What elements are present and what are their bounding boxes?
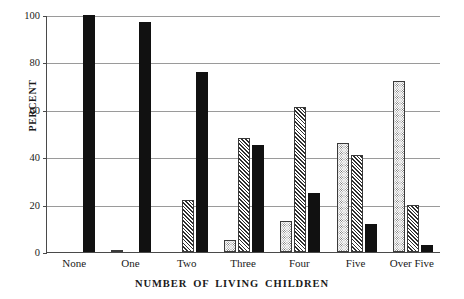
bar: [111, 250, 123, 252]
bar: [393, 81, 405, 252]
bar: [407, 205, 419, 252]
y-tick-label: 20: [30, 200, 41, 211]
bar-group: [168, 16, 208, 252]
y-tick-label: 80: [30, 58, 41, 69]
bar-group: [280, 16, 320, 252]
y-tick-label: 60: [30, 106, 41, 117]
bar-group: [55, 16, 95, 252]
y-tick-mark: [43, 206, 47, 207]
x-tick-label: Four: [289, 258, 310, 269]
bar: [294, 107, 306, 252]
x-tick-label: Five: [346, 258, 366, 269]
x-axis-title: NUMBER OF LIVING CHILDREN: [0, 278, 464, 289]
bar: [238, 138, 250, 252]
bar-group: [111, 16, 151, 252]
bar: [421, 245, 433, 252]
bar: [224, 240, 236, 252]
bar-group: [337, 16, 377, 252]
y-tick-mark: [43, 253, 47, 254]
bar-group: [393, 16, 433, 252]
y-tick-mark: [43, 158, 47, 159]
bar: [83, 15, 95, 252]
plot-area: 020406080100: [46, 16, 440, 253]
y-tick-label: 40: [30, 153, 41, 164]
bar: [337, 143, 349, 252]
y-tick-mark: [43, 16, 47, 17]
x-tick-label: One: [121, 258, 139, 269]
bar: [351, 155, 363, 252]
bar-chart: PERCENT 020406080100 NoneOneTwoThreeFour…: [0, 0, 464, 299]
y-tick-mark: [43, 63, 47, 64]
bar: [139, 22, 151, 252]
bar: [280, 221, 292, 252]
x-tick-label: Over Five: [390, 258, 434, 269]
x-tick-label: Two: [177, 258, 196, 269]
bar: [365, 224, 377, 252]
y-tick-label: 0: [35, 248, 40, 259]
bar: [252, 145, 264, 252]
x-tick-label: None: [62, 258, 86, 269]
bar-group: [224, 16, 264, 252]
y-tick-mark: [43, 111, 47, 112]
bar: [182, 200, 194, 252]
bar: [196, 72, 208, 252]
bar: [308, 193, 320, 252]
x-tick-label: Three: [230, 258, 256, 269]
y-tick-label: 100: [24, 11, 40, 22]
